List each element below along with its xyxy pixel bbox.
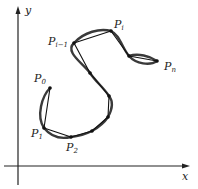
vertex-p0 bbox=[48, 86, 52, 90]
vertex bbox=[127, 54, 131, 58]
label-pi-minus-1: Pi−1 bbox=[47, 35, 68, 49]
vertex bbox=[90, 129, 94, 133]
vertex bbox=[107, 94, 111, 98]
vertex bbox=[106, 115, 110, 119]
y-axis-label: y bbox=[24, 4, 32, 17]
vertex-pi bbox=[109, 29, 113, 33]
label-pn: Pn bbox=[163, 60, 176, 74]
x-axis-label: x bbox=[182, 170, 189, 183]
vertex-p1 bbox=[42, 126, 46, 130]
y-axis-arrow-icon bbox=[16, 6, 21, 14]
vertex-pn bbox=[155, 59, 159, 63]
arc-length-diagram: y x P0 P1 bbox=[0, 0, 198, 189]
label-pi: Pi bbox=[113, 18, 124, 32]
vertex-pi-minus-1 bbox=[72, 41, 76, 45]
vertex bbox=[88, 71, 92, 75]
vertex-p2 bbox=[69, 135, 73, 139]
label-p0: P0 bbox=[33, 72, 46, 86]
x-axis-arrow-icon bbox=[182, 164, 190, 169]
label-p1: P1 bbox=[30, 127, 43, 141]
label-p2: P2 bbox=[65, 141, 78, 155]
